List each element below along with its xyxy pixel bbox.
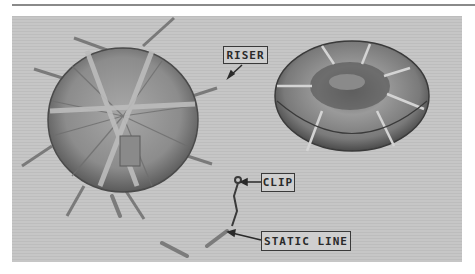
clip-label: CLIP [261,173,295,192]
static-line-label: STATIC LINE [261,231,351,251]
canopy-disc [22,18,241,256]
ring-pack [275,41,429,151]
top-rule [12,4,475,6]
riser-label: RISER [223,46,268,64]
leader-arrows [228,65,261,240]
